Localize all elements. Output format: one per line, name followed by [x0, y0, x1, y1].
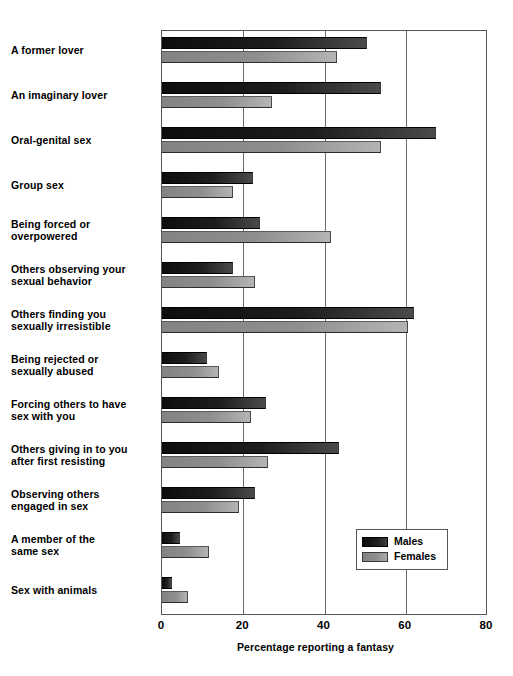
x-axis-tick-labels: 020406080	[0, 615, 513, 637]
bar-females-7	[162, 366, 219, 378]
plot-area	[161, 30, 487, 615]
bar-males-11	[162, 532, 180, 544]
bar-chart-figure: A former loverAn imaginary loverOral-gen…	[0, 0, 513, 676]
category-axis-labels: A former loverAn imaginary loverOral-gen…	[0, 30, 161, 615]
bar-males-4	[162, 217, 260, 229]
females-swatch-icon	[362, 552, 388, 562]
category-label-9: Others giving in to you after first resi…	[11, 443, 161, 467]
category-label-8: Forcing others to have sex with you	[11, 398, 161, 422]
category-label-1: An imaginary lover	[11, 89, 161, 101]
bar-females-11	[162, 546, 209, 558]
bar-females-4	[162, 231, 331, 243]
x-tick-20: 20	[236, 619, 249, 631]
bar-males-5	[162, 262, 233, 274]
bar-males-2	[162, 127, 436, 139]
bar-females-5	[162, 276, 255, 288]
bar-males-8	[162, 397, 266, 409]
category-label-3: Group sex	[11, 179, 161, 191]
bar-males-10	[162, 487, 255, 499]
bar-females-12	[162, 591, 188, 603]
bar-males-6	[162, 307, 414, 319]
x-tick-80: 80	[480, 619, 493, 631]
bar-males-12	[162, 577, 172, 589]
category-label-4: Being forced or overpowered	[11, 218, 161, 242]
bar-females-10	[162, 501, 239, 513]
bar-males-1	[162, 82, 381, 94]
bar-males-3	[162, 172, 253, 184]
chart-legend: Males Females	[356, 529, 448, 570]
x-axis-title: Percentage reporting a fantasy	[0, 641, 513, 653]
bar-females-1	[162, 96, 272, 108]
bar-males-7	[162, 352, 207, 364]
x-axis-title-text: Percentage reporting a fantasy	[119, 641, 394, 653]
category-label-2: Oral-genital sex	[11, 134, 161, 146]
x-tick-0: 0	[158, 619, 164, 631]
legend-item-males: Males	[362, 534, 442, 549]
bar-females-9	[162, 456, 268, 468]
bar-females-8	[162, 411, 251, 423]
x-tick-40: 40	[317, 619, 330, 631]
category-label-0: A former lover	[11, 44, 161, 56]
category-label-10: Observing others engaged in sex	[11, 488, 161, 512]
males-swatch-icon	[362, 537, 388, 547]
category-label-7: Being rejected or sexually abused	[11, 353, 161, 377]
legend-label-females: Females	[394, 551, 436, 562]
x-tick-60: 60	[398, 619, 411, 631]
bar-females-6	[162, 321, 408, 333]
legend-item-females: Females	[362, 549, 442, 564]
bar-females-3	[162, 186, 233, 198]
category-label-5: Others observing your sexual behavior	[11, 263, 161, 287]
category-label-11: A member of the same sex	[11, 533, 161, 557]
bar-females-2	[162, 141, 381, 153]
bar-males-0	[162, 37, 367, 49]
legend-label-males: Males	[394, 536, 423, 547]
category-label-6: Others finding you sexually irresistible	[11, 308, 161, 332]
bar-males-9	[162, 442, 339, 454]
category-label-12: Sex with animals	[11, 584, 161, 596]
bar-females-0	[162, 51, 337, 63]
